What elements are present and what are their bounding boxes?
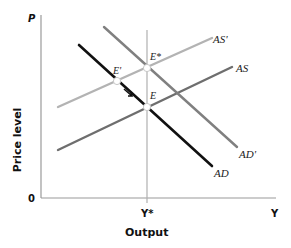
y-axis-symbol: P (28, 13, 36, 24)
point-e (143, 103, 150, 110)
label-e-star: E* (149, 51, 161, 62)
origin-label: 0 (28, 193, 35, 204)
x-axis-symbol: Y (270, 208, 279, 219)
label-ad-prime: AD' (238, 148, 257, 160)
point-e-prime (113, 77, 120, 84)
label-as-prime: AS' (212, 33, 228, 45)
label-ad: AD (213, 167, 229, 179)
label-as: AS (235, 62, 249, 74)
x-tick-y-star: Y* (140, 208, 154, 219)
label-e-prime: E' (112, 65, 122, 76)
x-axis-title: Output (125, 226, 168, 239)
as-ad-diagram: E* E E' AS' AS AD' AD P 0 Y* Y Output Pr… (0, 0, 291, 248)
y-axis-title: Price level (11, 108, 24, 173)
point-e-star (143, 64, 150, 71)
label-e: E (149, 90, 156, 101)
